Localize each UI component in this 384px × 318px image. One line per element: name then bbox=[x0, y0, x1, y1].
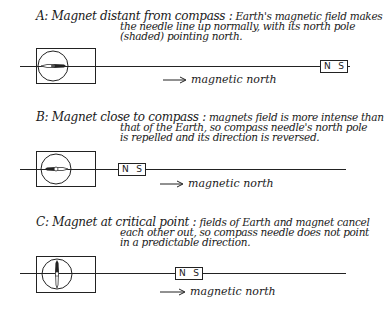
magnetic-north-label: magnetic north bbox=[163, 73, 277, 86]
magnet-south-pole: S bbox=[338, 61, 344, 72]
magnet-north-pole: N bbox=[122, 164, 129, 175]
panel-a: A: Magnet distant from compass : Earth's… bbox=[0, 0, 374, 105]
magnet-south-pole: S bbox=[136, 164, 142, 175]
magnet-north-pole: N bbox=[179, 268, 186, 279]
panel-c: C: Magnet at critical point : fields of … bbox=[0, 210, 374, 318]
compass-needle-icon bbox=[0, 105, 374, 210]
magnet-north-pole: N bbox=[324, 61, 331, 72]
compass-needle-icon bbox=[0, 0, 374, 105]
magnetic-north-label: magnetic north bbox=[160, 177, 274, 190]
compass-needle-icon bbox=[0, 210, 374, 318]
arrow-right-icon bbox=[163, 76, 187, 84]
magnet-south-pole: S bbox=[193, 268, 199, 279]
panel-b: B: Magnet close to compass : magnets fie… bbox=[0, 105, 374, 210]
bar-magnet: N S bbox=[320, 60, 348, 73]
bar-magnet: N S bbox=[175, 267, 203, 280]
bar-magnet: N S bbox=[118, 163, 146, 176]
arrow-right-icon bbox=[160, 288, 186, 296]
magnetic-north-label: magnetic north bbox=[160, 285, 276, 298]
arrow-right-icon bbox=[160, 180, 184, 188]
